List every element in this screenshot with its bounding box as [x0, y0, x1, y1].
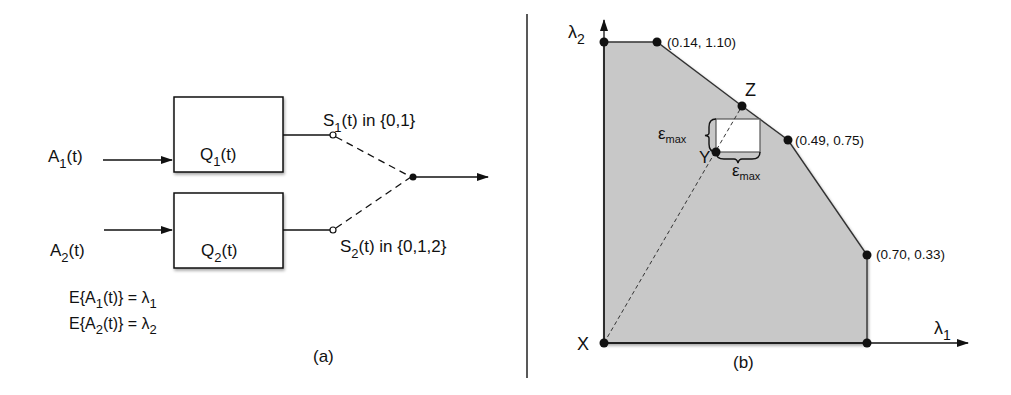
panel-b-caption: (b)	[733, 353, 754, 372]
panel-b: λ2 λ1 εmax εmax (0.14, 1.10) (0.49, 0.75…	[568, 20, 968, 372]
vertex-049-075	[784, 136, 793, 145]
y-axis-label: λ2	[568, 22, 585, 47]
point-y	[712, 148, 721, 157]
switch-s2-label: S2(t) in {0,1,2}	[340, 237, 447, 261]
capacity-region	[604, 42, 867, 343]
panel-a: A1(t) Q1(t) A2(t) Q2(t) S1(t) in {0,1} S…	[48, 97, 488, 366]
equation-lambda2: E{A2(t)} = λ2	[69, 315, 157, 337]
vertex-x-intercept	[863, 339, 872, 348]
point-x	[600, 339, 609, 348]
panel-a-caption: (a)	[313, 347, 334, 366]
vertex-label-014-110: (0.14, 1.10)	[667, 35, 736, 50]
epsilon-box	[716, 119, 760, 152]
x-axis-label: λ1	[934, 318, 951, 343]
figure-canvas: A1(t) Q1(t) A2(t) Q2(t) S1(t) in {0,1} S…	[0, 0, 1011, 395]
equation-lambda1: E{A1(t)} = λ1	[69, 289, 157, 311]
switch-s2-dashed-line	[336, 177, 411, 228]
point-y-label: Y	[699, 148, 710, 167]
vertex-label-070-033: (0.70, 0.33)	[876, 247, 945, 262]
vertex-014-110	[653, 38, 662, 47]
input-a1-label: A1(t)	[48, 147, 83, 171]
switch-s2-terminal	[330, 227, 336, 233]
vertex-070-033	[863, 251, 872, 260]
switch-s1-dashed-line	[336, 137, 411, 177]
vertex-label-049-075: (0.49, 0.75)	[795, 133, 864, 148]
point-z	[738, 102, 747, 111]
switch-s1-label: S1(t) in {0,1}	[323, 111, 416, 135]
point-x-label: X	[577, 334, 589, 354]
vertex-y-intercept	[600, 38, 609, 47]
input-a2-label: A2(t)	[50, 241, 85, 265]
point-z-label: Z	[745, 80, 756, 100]
